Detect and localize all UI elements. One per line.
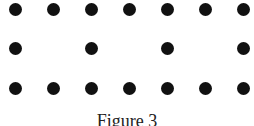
figure-caption: Figure 3 bbox=[0, 111, 254, 126]
dot bbox=[47, 3, 60, 16]
dot bbox=[9, 42, 22, 55]
dot bbox=[237, 82, 250, 95]
dot bbox=[161, 3, 174, 16]
dot bbox=[123, 82, 136, 95]
dot bbox=[199, 82, 212, 95]
dot bbox=[123, 3, 136, 16]
dot bbox=[161, 42, 174, 55]
dot bbox=[237, 42, 250, 55]
dot bbox=[9, 82, 22, 95]
dot bbox=[85, 82, 98, 95]
dot bbox=[85, 42, 98, 55]
dot bbox=[47, 82, 60, 95]
dot bbox=[161, 82, 174, 95]
dot bbox=[9, 3, 22, 16]
dot bbox=[85, 3, 98, 16]
dot bbox=[237, 3, 250, 16]
dot bbox=[199, 3, 212, 16]
